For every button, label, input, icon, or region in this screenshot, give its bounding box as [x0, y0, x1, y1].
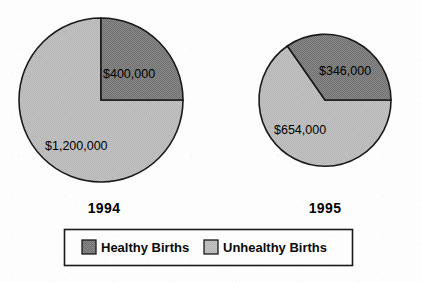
legend-item-healthy[interactable]: Healthy Births [82, 240, 189, 255]
legend-label-unhealthy: Unhealthy Births [223, 240, 327, 255]
pie-1995: $346,000 $654,000 1995 [259, 34, 391, 216]
legend-swatch-unhealthy-icon [204, 240, 218, 254]
legend-swatch-healthy-icon [82, 240, 96, 254]
pie-1995-healthy-value-label: $346,000 [319, 64, 371, 78]
legend-item-unhealthy[interactable]: Unhealthy Births [204, 240, 327, 255]
pie-1995-year-label: 1995 [309, 200, 342, 216]
pie-1994-unhealthy-value-label: $1,200,000 [45, 139, 108, 153]
legend-label-healthy: Healthy Births [101, 240, 189, 255]
pie-1994-healthy-value-label: $400,000 [103, 67, 155, 81]
chart-canvas: $400,000 $1,200,000 1994 $346,000 $654,0… [0, 0, 421, 282]
pie-1994-slice-healthy [101, 18, 183, 100]
chart-legend: Healthy Births Unhealthy Births [65, 230, 353, 266]
pie-1994: $400,000 $1,200,000 1994 [19, 18, 183, 216]
pie-1994-year-label: 1994 [88, 200, 121, 216]
pie-1995-unhealthy-value-label: $654,000 [274, 123, 326, 137]
pie-chart-figure: $400,000 $1,200,000 1994 $346,000 $654,0… [0, 0, 421, 282]
